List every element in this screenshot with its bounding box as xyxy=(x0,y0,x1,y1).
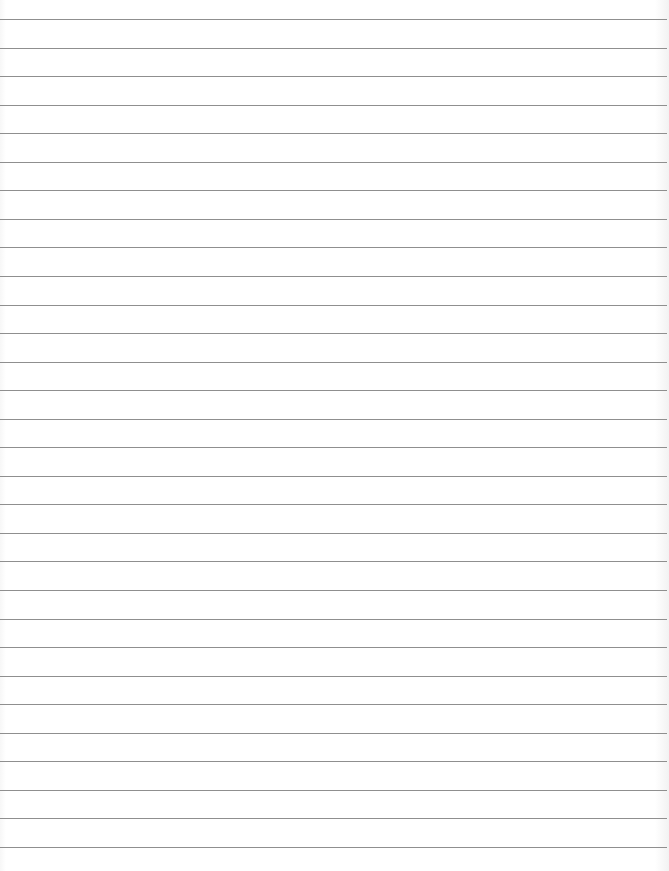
ruled-line xyxy=(0,219,667,220)
ruled-line xyxy=(0,847,667,848)
ruled-line xyxy=(0,676,667,677)
ruled-line xyxy=(0,504,667,505)
ruled-line xyxy=(0,133,667,134)
ruled-line xyxy=(0,19,667,20)
ruled-line xyxy=(0,590,667,591)
ruled-line xyxy=(0,790,667,791)
ruled-line xyxy=(0,190,667,191)
ruled-line xyxy=(0,818,667,819)
ruled-line xyxy=(0,704,667,705)
ruled-line xyxy=(0,761,667,762)
ruled-line xyxy=(0,561,667,562)
ruled-line xyxy=(0,647,667,648)
ruled-line xyxy=(0,533,667,534)
ruled-line xyxy=(0,48,667,49)
ruled-line xyxy=(0,333,667,334)
ruled-line xyxy=(0,162,667,163)
ruled-line xyxy=(0,447,667,448)
ruled-line xyxy=(0,362,667,363)
ruled-line xyxy=(0,619,667,620)
ruled-line xyxy=(0,390,667,391)
ruled-line xyxy=(0,476,667,477)
ruled-line xyxy=(0,305,667,306)
ruled-line xyxy=(0,419,667,420)
ruled-line xyxy=(0,733,667,734)
ruled-line xyxy=(0,76,667,77)
ruled-line xyxy=(0,276,667,277)
lined-paper-sheet xyxy=(0,0,669,871)
ruled-line xyxy=(0,105,667,106)
ruled-line xyxy=(0,247,667,248)
